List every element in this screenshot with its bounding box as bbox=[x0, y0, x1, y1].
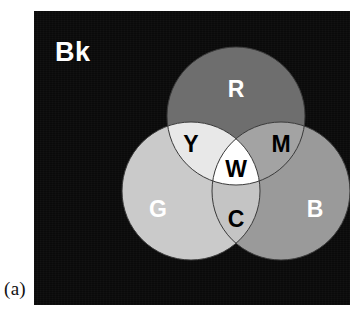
figure-root: Bk bbox=[0, 0, 357, 319]
background-label-bk: Bk bbox=[55, 39, 91, 66]
diagram-panel: Bk bbox=[34, 11, 350, 305]
figure-caption: (a) bbox=[4, 279, 26, 298]
